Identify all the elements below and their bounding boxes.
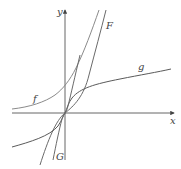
- curve-g-label: g: [138, 61, 144, 72]
- curve-F-label: F: [105, 20, 114, 31]
- curve-f: [12, 10, 99, 109]
- function-graph-figure: y x f F g G: [0, 0, 181, 169]
- y-axis-label: y: [56, 6, 63, 17]
- graph-canvas: y x f F g G: [0, 0, 181, 169]
- curve-f-label: f: [32, 93, 39, 104]
- curve-G-label: G: [56, 151, 64, 162]
- x-axis-label: x: [170, 115, 176, 126]
- curve-F: [40, 10, 106, 165]
- curve-G: [53, 55, 80, 160]
- curve-g: [12, 69, 171, 147]
